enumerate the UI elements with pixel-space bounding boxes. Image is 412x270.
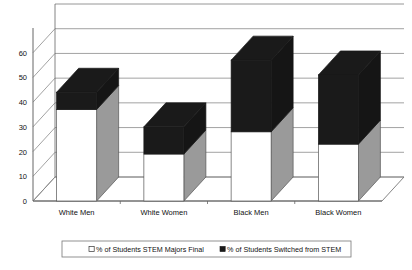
bar-1-seg-1-front — [144, 127, 184, 154]
grid-depth-connector-10 — [33, 152, 55, 176]
bar-0-seg-1-front — [57, 92, 97, 109]
chart-canvas: 0102030405060White MenWhite WomenBlack M… — [0, 0, 412, 270]
bar-3-seg-1-front — [318, 75, 358, 144]
stacked-column-chart: 0102030405060White MenWhite WomenBlack M… — [0, 0, 412, 270]
x-axis-category-label-3: Black Women — [315, 208, 361, 217]
bar-2-seg-0-front — [231, 132, 271, 201]
grid-depth-connector-60 — [33, 29, 55, 53]
x-axis-category-label-2: Black Men — [234, 208, 269, 217]
y-axis-tick-0: 0 — [23, 197, 27, 206]
legend-entry-label-0: % of Students STEM Majors Final — [96, 245, 204, 254]
x-axis-category-label-1: White Women — [140, 208, 187, 217]
bar-0-seg-0-front — [57, 110, 97, 201]
bar-2-seg-1-front — [231, 60, 271, 132]
grid-depth-connector-20 — [33, 128, 55, 152]
grid-depth-connector-30 — [33, 103, 55, 127]
y-axis-tick-60: 60 — [19, 49, 27, 58]
legend-entry-label-1: % of Students Switched from STEM — [227, 245, 341, 254]
y-axis-tick-20: 20 — [19, 148, 27, 157]
y-axis-tick-50: 50 — [19, 73, 27, 82]
legend-swatch-filled-square-1 — [220, 246, 225, 251]
y-axis-tick-30: 30 — [19, 123, 27, 132]
y-axis-tick-10: 10 — [19, 172, 27, 181]
y-axis-tick-40: 40 — [19, 98, 27, 107]
grid-depth-connector-50 — [33, 53, 55, 77]
bar-3-seg-0-front — [318, 144, 358, 201]
legend-swatch-open-square-0 — [89, 246, 94, 251]
bar-1-seg-0-front — [144, 154, 184, 201]
grid-depth-connector-40 — [33, 78, 55, 102]
x-axis-category-label-0: White Men — [59, 208, 95, 217]
